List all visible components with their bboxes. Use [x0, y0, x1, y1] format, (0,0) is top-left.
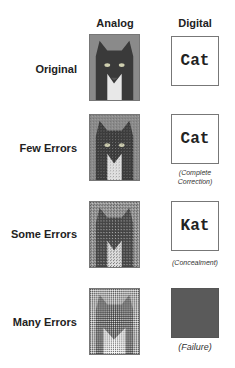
caption-concealment: (Concealment) [160, 258, 230, 267]
cat-photo-many-errors [89, 288, 140, 355]
cat-photo-few-errors [89, 114, 140, 181]
digital-box-few-errors: Cat [171, 114, 219, 164]
caption-line-1: (Complete [160, 168, 230, 177]
header-digital: Digital [165, 17, 225, 29]
caption-complete-correction: (Complete Correction) [160, 168, 230, 186]
row-label-many-errors: Many Errors [0, 316, 77, 328]
row-label-some-errors: Some Errors [0, 228, 77, 240]
digital-box-failure [171, 288, 219, 338]
cat-photo-original [89, 34, 140, 101]
row-label-few-errors: Few Errors [0, 142, 77, 154]
row-label-original: Original [0, 63, 77, 75]
header-analog: Analog [85, 17, 145, 29]
caption-line-2: Correction) [160, 177, 230, 186]
digital-box-original: Cat [171, 36, 219, 86]
caption-failure: (Failure) [160, 343, 230, 352]
digital-box-some-errors: Kat [171, 201, 219, 251]
cat-photo-some-errors [89, 201, 140, 268]
